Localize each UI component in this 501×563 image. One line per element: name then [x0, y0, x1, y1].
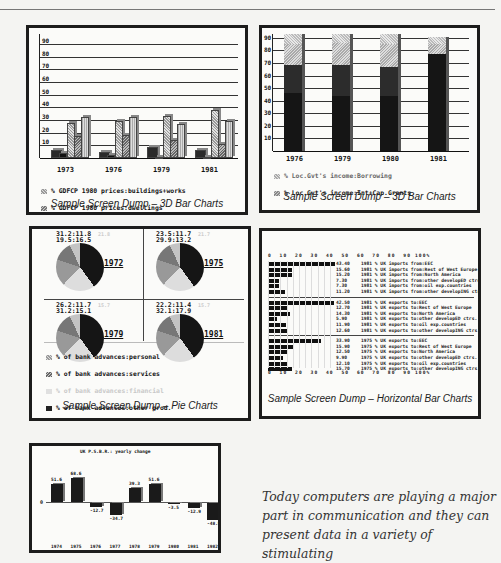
- bar: [107, 155, 115, 158]
- yearly-bar: [149, 484, 161, 502]
- legend-item: % of bank advances:services: [46, 372, 179, 378]
- hbar-value: 11.20: [336, 289, 350, 294]
- hbar-gridline: [280, 261, 281, 368]
- hbar-gridline: [268, 261, 269, 368]
- hbar-label: 1981 % UK imports from:EEC: [361, 261, 433, 266]
- pie-chart: [156, 243, 204, 291]
- yearly-value: 51.6: [51, 477, 62, 482]
- top-rule: [0, 9, 495, 10]
- y-tick-label: 60: [42, 75, 49, 82]
- x-tick-label: 1979: [334, 155, 351, 163]
- hbar-value: 12.70: [336, 305, 350, 310]
- yearly-value: -34.7: [110, 516, 124, 521]
- hbar-value: 15.90: [336, 344, 350, 349]
- y-tick-label: 50: [42, 88, 49, 95]
- x-tick-label: 1979: [153, 166, 170, 174]
- bar-segment: [428, 37, 446, 45]
- pie-caption: Sample Screen Dump – Pie Charts: [32, 400, 248, 411]
- y-tick-label: 30: [42, 113, 49, 120]
- hbar-gridline: [287, 261, 288, 368]
- pie-value-faint: 21.8: [98, 231, 110, 237]
- hbar-label: 1981 % UK exports to:oil exp.countries: [361, 322, 466, 327]
- bar-segment: [332, 65, 350, 95]
- bar-segment: [380, 44, 398, 67]
- y-tick-label: 80: [42, 50, 49, 57]
- x-tick-label: 1976: [286, 155, 303, 163]
- hbar-bar: [268, 362, 287, 366]
- y-tick-label: 70: [264, 59, 271, 66]
- hbar-value: 43.40: [336, 261, 350, 266]
- pie-values: 23.5:11.7 29.9:13.2: [156, 231, 191, 243]
- hbar-value: 42.50: [336, 300, 350, 305]
- hbar-label: 1981 % UK exports to:other developING ct…: [361, 328, 480, 333]
- pie-year-label: 1975: [204, 259, 223, 268]
- legend-item: % Loc.Gvt's income:Borrowing: [274, 174, 419, 180]
- hbar-label: 1981 % UK exports to:Rest of West Europe: [361, 305, 472, 310]
- hbar-bar: [268, 350, 287, 354]
- pie-vdivider: [143, 229, 144, 341]
- hbar-value: 9.90: [336, 355, 347, 360]
- hbar-axis-bottom: 0 10 20 30 40 50 60 70 80 90 100%: [268, 370, 430, 375]
- hbar-label: 1981 % UK exports to:other developED ctr…: [361, 316, 477, 321]
- hbar-gridline: [305, 261, 306, 368]
- gridline: [40, 82, 238, 83]
- gridline: [40, 95, 238, 96]
- yearly-bar: [129, 488, 141, 502]
- hbar-gridline: [299, 261, 300, 368]
- pie-value-faint: 15.7: [98, 302, 110, 308]
- bar3d-right-panel: 102030405060708090 1976197919801981 % Lo…: [259, 25, 480, 213]
- y-tick-label: 60: [264, 72, 271, 79]
- hbar-label: 1975 % UK exports to:other developED ctr…: [361, 355, 477, 360]
- yearly-value: -12.7: [90, 508, 104, 513]
- hbar-value: 11.90: [336, 322, 350, 327]
- y-tick-label: 70: [42, 62, 49, 69]
- hbar-label: 1981 % UK exports to:North America: [361, 311, 455, 316]
- pie-value-faint: 15.7: [198, 302, 210, 308]
- hbar-value: 7.30: [336, 278, 347, 283]
- pie-panel: 31.2:11.8 19.5:16.521.8197223.5:11.7 29.…: [29, 226, 251, 421]
- hbar-value: 15.20: [336, 272, 350, 277]
- yearly-bar: [207, 503, 219, 520]
- bar: [59, 153, 67, 158]
- yearly-year: 1977: [110, 544, 121, 549]
- hbar-value: 7.30: [336, 283, 347, 288]
- hbar-gridline: [318, 261, 319, 368]
- pie-values: 26.2:11.7 31.2:15.1: [56, 302, 91, 314]
- hbar-label: 1981 % UK imports from:oil exp.countries: [361, 283, 472, 288]
- hbar-label: 1981 % UK imports from:other developING …: [361, 289, 481, 294]
- bar-segment: [428, 44, 446, 54]
- hbar-label: 1981 % UK imports from:Rest of West Euro…: [361, 267, 477, 272]
- bar3d-left-legend: % GDFCP 1980 prices:buildings+works % GD…: [41, 178, 193, 215]
- yearly-year: 1982: [207, 544, 218, 549]
- bar: [129, 117, 137, 158]
- pie-year-label: 1979: [104, 330, 123, 339]
- legend-item: % of bank advances:personal: [46, 355, 179, 361]
- bar: [155, 157, 163, 159]
- yearly-value: 68.6: [71, 471, 82, 476]
- hbar-value: 12.10: [336, 361, 350, 366]
- yearly-panel: UK P.S.B.R.: yearly change 0 51.6197468.…: [29, 443, 221, 553]
- hbar-value: 12.60: [336, 328, 350, 333]
- yearly-value: 39.3: [129, 481, 140, 486]
- legend-item: % GDFCP 1980 prices:buildings+works: [41, 189, 193, 195]
- y-tick-label: 80: [264, 46, 271, 53]
- yearly-bar: [168, 503, 180, 504]
- hbar-label: 1981 % UK exports to:EEC: [361, 300, 427, 305]
- hbar-label: 1975 % UK exports to:oil exp.countries: [361, 361, 466, 366]
- y-tick-label: 20: [42, 126, 49, 133]
- hbar-gridline: [330, 261, 331, 368]
- y-tick-label: 20: [264, 122, 271, 129]
- pie-values: 22.2:11.4 32.1:17.9: [156, 302, 191, 314]
- x-tick-label: 1981: [201, 166, 218, 174]
- yearly-value: -12.9: [188, 509, 202, 514]
- hbar-axis-top: 0 10 20 30 40 50 60 70 80 90 100%: [268, 253, 430, 258]
- yearly-year: 1975: [71, 544, 82, 549]
- hbar-bar: [268, 329, 288, 333]
- gridline: [40, 57, 238, 58]
- hbar-panel: 0 10 20 30 40 50 60 70 80 90 100% 43.401…: [259, 228, 481, 419]
- pie-hdivider: [44, 299, 244, 300]
- bar3d-right-legend: % Loc.Gvt's income:Borrowing % Loc.Gvt's…: [274, 163, 419, 213]
- pie-year-label: 1981: [204, 330, 223, 339]
- bar-segment: [332, 96, 350, 151]
- y-axis: [272, 34, 273, 151]
